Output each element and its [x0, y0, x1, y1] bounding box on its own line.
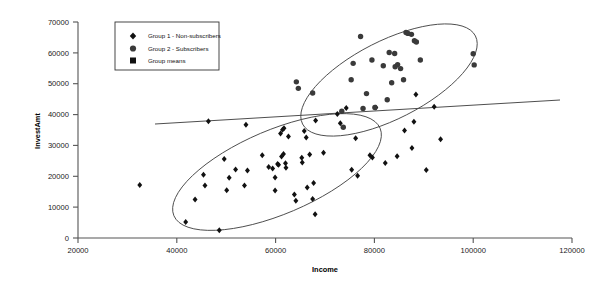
x-axis-ticks	[78, 238, 572, 243]
data-point-circle	[310, 90, 315, 95]
x-axis-tick-labels: 20000 40000 60000 80000 100000 120000	[67, 246, 584, 255]
data-point-circle	[348, 77, 353, 82]
data-point-circle	[358, 34, 363, 39]
data-point-diamond	[383, 160, 388, 166]
y-axis-title: InvestAmt	[33, 113, 42, 149]
data-point-circle	[392, 51, 397, 56]
x-axis: 20000 40000 60000 80000 100000 120000 In…	[67, 238, 584, 274]
data-point-circle	[418, 57, 423, 62]
data-point-circle	[387, 50, 392, 55]
x-tick-label: 100000	[461, 246, 486, 255]
data-point-diamond	[266, 164, 271, 170]
data-point-circle	[389, 80, 394, 85]
data-point-diamond	[193, 196, 198, 202]
data-point-diamond	[353, 135, 358, 141]
data-point-diamond	[293, 198, 298, 204]
data-point-diamond	[222, 156, 227, 162]
y-axis: 70000 60000 50000 40000 30000 20000 1000…	[33, 18, 78, 243]
data-point-diamond	[432, 104, 437, 110]
data-point-diamond	[304, 134, 309, 140]
data-point-diamond	[244, 122, 249, 128]
data-point-circle	[372, 105, 377, 110]
data-point-diamond	[395, 153, 400, 159]
data-point-circle	[369, 57, 374, 62]
data-point-circle	[350, 61, 355, 66]
x-axis-title: Income	[312, 265, 338, 274]
y-tick-label: 60000	[48, 49, 69, 58]
y-tick-label: 30000	[48, 141, 69, 150]
data-point-circle	[385, 97, 390, 102]
data-point-diamond	[307, 151, 312, 157]
data-point-circle	[398, 66, 403, 71]
data-point-diamond	[273, 175, 278, 181]
y-tick-label: 50000	[48, 79, 69, 88]
data-point-diamond	[183, 219, 188, 225]
legend: Group 1 - Non-subscribers Group 2 - Subs…	[115, 22, 221, 70]
data-point-diamond	[217, 227, 222, 233]
data-point-diamond	[292, 191, 297, 197]
y-axis-ticks	[73, 22, 78, 238]
data-point-diamond	[313, 117, 318, 123]
data-point-diamond	[413, 92, 418, 98]
data-point-circle	[341, 125, 346, 130]
data-point-diamond	[260, 152, 265, 158]
data-point-diamond	[299, 155, 304, 161]
data-point-diamond	[411, 119, 416, 125]
square-marker-icon	[130, 58, 136, 64]
data-point-circle	[364, 91, 369, 96]
group2-ellipse	[285, 1, 493, 159]
data-point-circle	[296, 86, 301, 91]
data-point-diamond	[224, 187, 229, 193]
data-point-circle	[471, 51, 476, 56]
data-point-circle	[401, 77, 406, 82]
data-point-diamond	[202, 183, 207, 189]
legend-label-means: Group means	[148, 57, 186, 64]
scatter-chart: 70000 60000 50000 40000 30000 20000 1000…	[0, 0, 606, 283]
data-point-diamond	[344, 105, 349, 111]
data-point-diamond	[402, 128, 407, 134]
data-point-diamond	[424, 167, 429, 173]
x-tick-label: 20000	[67, 246, 88, 255]
data-point-circle	[381, 63, 386, 68]
data-point-diamond	[233, 166, 238, 172]
circle-marker-icon	[130, 45, 136, 51]
data-point-diamond	[286, 133, 291, 139]
y-tick-label: 40000	[48, 110, 69, 119]
chart-canvas: 70000 60000 50000 40000 30000 20000 1000…	[0, 0, 606, 283]
x-tick-label: 80000	[364, 246, 385, 255]
x-tick-label: 40000	[166, 246, 187, 255]
y-tick-label: 20000	[48, 172, 69, 181]
data-point-diamond	[321, 150, 326, 156]
y-tick-label: 0	[65, 234, 69, 243]
data-point-diamond	[311, 180, 316, 186]
group1-ellipse	[157, 90, 396, 255]
data-point-diamond	[273, 187, 278, 193]
data-point-diamond	[305, 184, 310, 190]
data-point-diamond	[227, 175, 232, 181]
data-point-diamond	[242, 183, 247, 189]
legend-label-group1: Group 1 - Non-subscribers	[148, 32, 221, 39]
data-point-diamond	[245, 167, 250, 173]
data-point-circle	[294, 79, 299, 84]
data-point-diamond	[335, 111, 340, 117]
data-point-diamond	[206, 118, 211, 124]
data-point-diamond	[201, 172, 206, 178]
x-tick-label: 60000	[265, 246, 286, 255]
data-point-diamond	[137, 182, 142, 188]
data-point-diamond	[409, 145, 414, 151]
data-point-diamond	[438, 136, 443, 142]
y-tick-label: 10000	[48, 203, 69, 212]
y-tick-label: 70000	[48, 18, 69, 27]
data-point-circle	[471, 62, 476, 67]
data-point-diamond	[300, 159, 305, 165]
y-axis-tick-labels: 70000 60000 50000 40000 30000 20000 1000…	[48, 18, 69, 243]
data-point-diamond	[284, 165, 289, 171]
data-point-circle	[414, 39, 419, 44]
data-point-diamond	[270, 166, 275, 172]
data-point-diamond	[313, 211, 318, 217]
data-point-circle	[409, 32, 414, 37]
data-point-diamond	[349, 167, 354, 173]
x-tick-label: 120000	[559, 246, 584, 255]
data-point-circle	[339, 108, 344, 113]
data-point-circle	[360, 106, 365, 111]
